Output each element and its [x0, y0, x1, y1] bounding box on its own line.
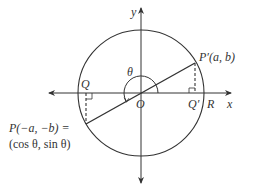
origin-label: O [136, 97, 145, 111]
unit-circle-diagram: y x θ O Q Q′ R P′(a, b) P(−a, −b) = (cos… [0, 0, 253, 193]
Q-prime-label: Q′ [188, 97, 200, 111]
x-axis-label: x [226, 97, 233, 111]
P-label: P(−a, −b) = [8, 121, 70, 135]
y-axis-label: y [130, 5, 137, 19]
theta-label: θ [127, 65, 133, 79]
P-coords: (−a, −b) = [16, 121, 69, 135]
P-prime-coords: (a, b) [209, 50, 235, 64]
right-angle-marker-Q [86, 93, 92, 99]
R-label: R [206, 97, 215, 111]
P-trig-label: (cos θ, sin θ) [9, 137, 71, 151]
P-prime-label: P′(a, b) [198, 50, 235, 64]
right-angle-marker-Q-prime [189, 88, 195, 93]
P-prime-name: P′ [198, 50, 209, 64]
Q-label: Q [81, 77, 90, 91]
